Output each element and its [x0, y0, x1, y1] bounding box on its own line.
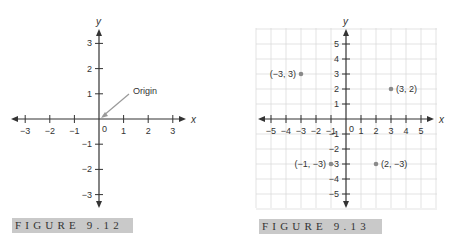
- y-tick-label: 1: [87, 89, 92, 99]
- x-tick-label: −3: [20, 126, 30, 136]
- y-tick-label: −2: [82, 164, 92, 174]
- y-tick-label: −1: [329, 129, 339, 139]
- data-point-label: (3, 2): [396, 84, 417, 94]
- y-tick-label: −4: [329, 174, 339, 184]
- y-tick-label: −1: [82, 139, 92, 149]
- figure-caption-9-12: FIGURE 9.12: [12, 218, 133, 233]
- x-tick-label: 3: [170, 126, 175, 136]
- x-tick-label: 2: [373, 126, 378, 136]
- data-point: [329, 162, 334, 167]
- x-axis-right-arrow-icon: [427, 116, 434, 122]
- figure-9-12-plot: xy−3−2−10123−3−2−1123Origin: [11, 16, 197, 208]
- x-tick-label: 3: [388, 126, 393, 136]
- x-tick-label: −5: [266, 126, 276, 136]
- x-tick-label: −4: [281, 126, 291, 136]
- annotation-arrow-line: [103, 94, 129, 116]
- y-axis-label: y: [95, 16, 102, 27]
- origin-annotation-label: Origin: [133, 86, 157, 96]
- x-tick-label: −1: [69, 126, 79, 136]
- data-point: [374, 162, 379, 167]
- y-tick-label: 3: [87, 38, 92, 48]
- y-tick-label: 4: [334, 54, 339, 64]
- y-tick-label: 2: [334, 84, 339, 94]
- figures-canvas: xy−3−2−10123−3−2−1123Origin xy−5−4−3−2−1…: [0, 0, 452, 241]
- x-tick-label: −3: [296, 126, 306, 136]
- origin-zero-label: 0: [349, 124, 354, 134]
- x-axis-right-arrow-icon: [179, 116, 186, 122]
- x-tick-label: 2: [146, 126, 151, 136]
- data-point: [299, 72, 304, 77]
- x-axis-left-arrow-icon: [11, 116, 18, 122]
- origin-zero-label: 0: [102, 124, 107, 134]
- y-tick-label: −3: [82, 190, 92, 200]
- data-point: [389, 87, 394, 92]
- y-tick-label: −5: [329, 189, 339, 199]
- figure-9-13-plot: xy−5−4−3−2−1012345−5−4−3−2−112345(−3, 3)…: [256, 16, 445, 209]
- x-tick-label: 1: [121, 126, 126, 136]
- data-point-label: (−1, −3): [294, 159, 326, 169]
- x-tick-label: 4: [403, 126, 408, 136]
- x-tick-label: −2: [311, 126, 321, 136]
- y-tick-label: 1: [334, 99, 339, 109]
- y-tick-label: −2: [329, 144, 339, 154]
- x-tick-label: −2: [45, 126, 55, 136]
- data-point-label: (2, −3): [381, 159, 407, 169]
- x-axis-label: x: [438, 114, 445, 125]
- y-axis-label: y: [342, 16, 349, 27]
- data-point-label: (−3, 3): [270, 69, 296, 79]
- x-axis-label: x: [190, 114, 197, 125]
- y-axis-up-arrow-icon: [343, 29, 349, 36]
- y-axis-down-arrow-icon: [343, 201, 349, 208]
- figure-caption-9-13: FIGURE 9.13: [259, 219, 382, 234]
- y-axis-down-arrow-icon: [96, 201, 102, 208]
- y-tick-label: 3: [334, 69, 339, 79]
- y-axis-up-arrow-icon: [96, 29, 102, 36]
- y-tick-label: 2: [87, 64, 92, 74]
- x-tick-label: 1: [358, 126, 363, 136]
- x-axis-left-arrow-icon: [258, 116, 265, 122]
- y-tick-label: 5: [334, 39, 339, 49]
- x-tick-label: 5: [418, 126, 423, 136]
